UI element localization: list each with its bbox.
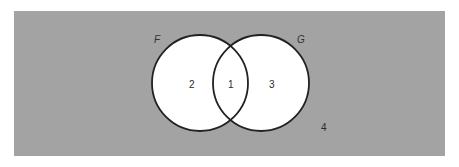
region-f-only-label: 2: [189, 79, 195, 90]
set-f-label: F: [154, 34, 161, 45]
region-outside-label: 4: [321, 122, 327, 133]
set-g-label: G: [297, 34, 305, 45]
region-intersection-label: 1: [228, 79, 234, 90]
region-g-only-label: 3: [269, 79, 275, 90]
venn-diagram: F G 2 1 3 4: [0, 0, 459, 167]
